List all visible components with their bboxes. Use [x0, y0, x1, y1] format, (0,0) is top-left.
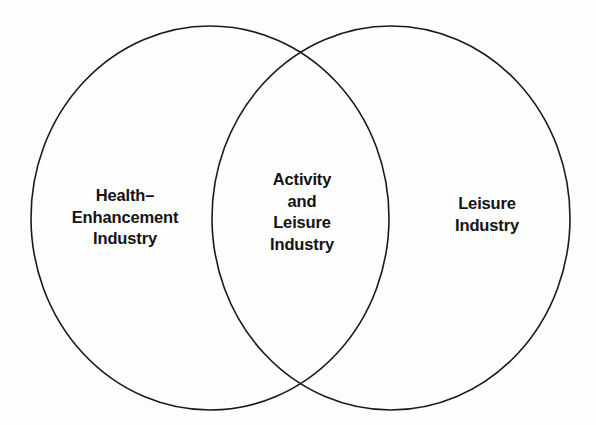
venn-diagram-canvas: Health– Enhancement Industry Activity an…	[0, 0, 596, 425]
right-set-label: Leisure Industry	[412, 193, 562, 236]
left-set-label: Health– Enhancement Industry	[25, 185, 225, 250]
intersection-label: Activity and Leisure Industry	[242, 169, 362, 255]
